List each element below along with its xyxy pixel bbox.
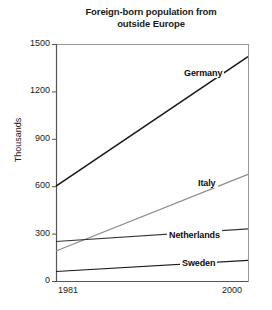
- y-tick-label: 0: [16, 276, 50, 285]
- y-tick-label: 1500: [16, 39, 50, 48]
- y-tick-300: 300: [12, 229, 50, 238]
- x-tick-label-1981: 1981: [58, 285, 78, 295]
- y-tick-1500: 1500: [12, 39, 50, 48]
- y-tick-label: 600: [16, 181, 50, 190]
- plot-frame: [57, 45, 249, 282]
- chart-container: Foreign-born population from outside Eur…: [0, 0, 272, 310]
- y-tick-600: 600: [12, 181, 50, 190]
- x-tick-label-2000: 2000: [222, 285, 242, 295]
- y-tick-1200: 1200: [12, 86, 50, 95]
- series-label-netherlands: Netherlands: [167, 230, 222, 240]
- y-tick-900: 900: [12, 134, 50, 143]
- y-tick-0: 0: [12, 276, 50, 285]
- y-tick-label: 900: [16, 134, 50, 143]
- series-label-italy: Italy: [196, 178, 218, 188]
- y-tick-label: 1200: [16, 86, 50, 95]
- series-label-sweden: Sweden: [180, 258, 217, 268]
- y-tick-label: 300: [16, 229, 50, 238]
- series-label-germany: Germany: [182, 68, 224, 78]
